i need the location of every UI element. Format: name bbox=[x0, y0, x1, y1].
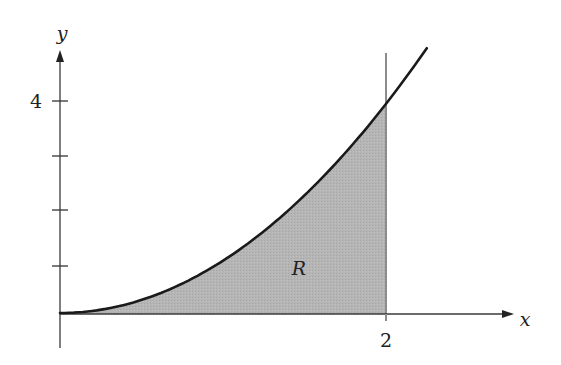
x-axis-label: x bbox=[520, 308, 531, 330]
y-tick-label-4: 4 bbox=[30, 90, 42, 112]
region-label-r: R bbox=[291, 257, 306, 279]
region-under-curve-diagram: y x 4 2 R bbox=[0, 0, 561, 365]
y-axis-arrow-icon bbox=[56, 50, 64, 62]
x-axis-arrow-icon bbox=[502, 310, 514, 318]
x-tick-label-2: 2 bbox=[380, 329, 392, 351]
y-axis-label: y bbox=[56, 22, 68, 44]
shaded-region-r bbox=[60, 104, 386, 314]
